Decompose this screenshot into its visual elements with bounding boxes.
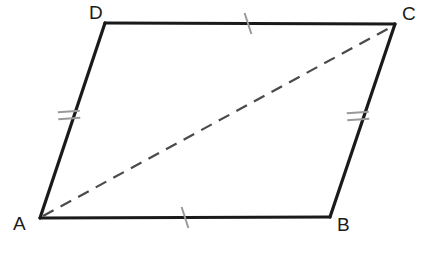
congruence-tick-marks: [58, 13, 369, 228]
side-da: [40, 23, 105, 218]
vertex-label-b: B: [337, 215, 350, 234]
tick-bc-1: [347, 119, 369, 121]
geometry-figure: A B C D: [0, 0, 425, 266]
side-cd: [105, 23, 395, 24]
parallelogram-sides: [40, 23, 395, 218]
vertex-label-a: A: [13, 214, 26, 233]
tick-da-1: [58, 118, 80, 120]
vertex-label-d: D: [89, 3, 103, 22]
parallelogram-diagram: [0, 0, 425, 266]
side-bc: [330, 24, 395, 217]
vertex-label-c: C: [402, 4, 416, 23]
